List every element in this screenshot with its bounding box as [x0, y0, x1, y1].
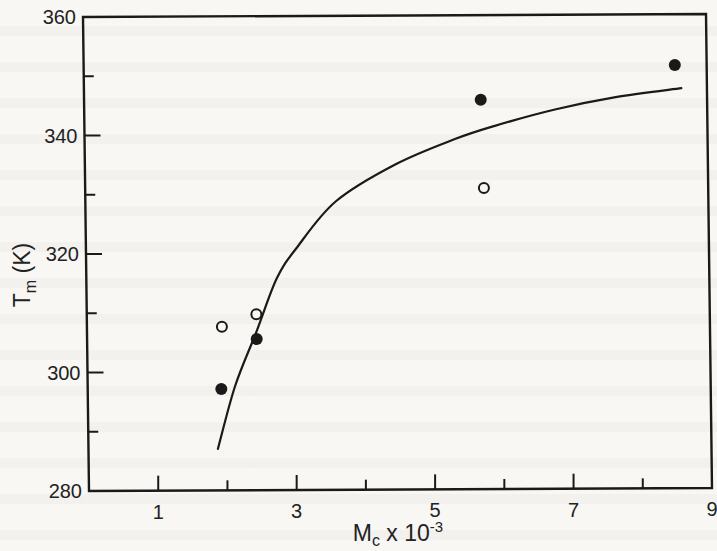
- x-label-subscript: c: [372, 532, 380, 549]
- open-data-point: [217, 322, 227, 332]
- scatter-plot: 280300320340360 13579 Tm (K) Mc x 10-3: [0, 0, 717, 551]
- fitted-curve: [218, 88, 681, 449]
- axes-box: [83, 14, 712, 491]
- y-axis-title: Tm (K): [9, 243, 39, 307]
- plot-frame: [83, 14, 712, 491]
- y-tick-label: 340: [44, 125, 77, 147]
- x-tick-label: 3: [291, 500, 302, 522]
- y-tick-label: 280: [49, 480, 82, 502]
- fit-curve-line: [218, 88, 681, 449]
- x-tick-label: 1: [153, 501, 164, 523]
- y-label-rest: (K): [9, 243, 35, 280]
- x-label-main: M: [353, 520, 372, 546]
- x-axis-title: Mc x 10-3: [353, 518, 443, 549]
- y-tick-label: 360: [43, 6, 76, 28]
- x-label-superscript: -3: [430, 518, 443, 535]
- x-tick-label: 7: [568, 499, 579, 521]
- x-axis-label: Mc x 10-3: [353, 518, 443, 549]
- filled-data-point: [669, 59, 681, 71]
- x-axis-ticks: 13579: [153, 474, 717, 523]
- open-data-point: [251, 309, 261, 319]
- y-axis-ticks: 280300320340360: [43, 6, 104, 502]
- y-label-main: T: [9, 293, 35, 307]
- y-tick-label: 300: [47, 362, 80, 384]
- y-label-subscript: m: [22, 280, 39, 293]
- chart-page: 280300320340360 13579 Tm (K) Mc x 10-3: [0, 0, 717, 551]
- x-tick-label: 9: [706, 498, 717, 520]
- open-data-point: [479, 183, 489, 193]
- filled-data-point: [251, 333, 263, 345]
- x-label-rest: x 10: [380, 520, 430, 546]
- data-markers: [215, 59, 680, 395]
- y-tick-label: 320: [46, 243, 79, 265]
- filled-data-point: [475, 94, 487, 106]
- y-axis-label: Tm (K): [9, 243, 39, 307]
- filled-data-point: [215, 383, 227, 395]
